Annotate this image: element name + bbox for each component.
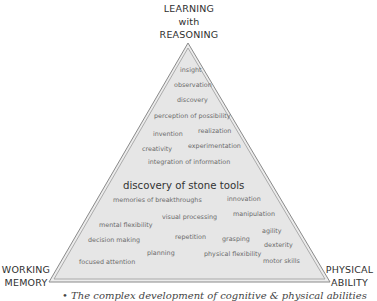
term-realization: realization bbox=[198, 127, 231, 135]
term-planning: planning bbox=[147, 249, 175, 257]
apex-line-3: REASONING bbox=[138, 28, 240, 41]
term-discovery: discovery bbox=[177, 96, 208, 104]
term-motor-skills: motor skills bbox=[263, 257, 300, 265]
term-perception-of-possibility: perception of possibility bbox=[154, 112, 231, 120]
term-agility: agility bbox=[262, 227, 282, 235]
term-grasping: grasping bbox=[222, 235, 250, 243]
term-focused-attention: focused attention bbox=[79, 258, 135, 266]
term-integration-of-information: integration of information bbox=[148, 158, 230, 166]
left-label-working-memory: WORKING MEMORY bbox=[0, 263, 52, 289]
term-repetition: repetition bbox=[175, 233, 206, 241]
center-label: discovery of stone tools bbox=[123, 180, 244, 191]
right-line-2: ABILITY bbox=[322, 276, 377, 289]
term-mental-flexibility: mental flexibility bbox=[99, 221, 153, 229]
term-manipulation: manipulation bbox=[233, 210, 275, 218]
apex-line-2: with bbox=[138, 15, 240, 28]
apex-line-1: LEARNING bbox=[138, 2, 240, 15]
right-label-physical-ability: PHYSICAL ABILITY bbox=[322, 263, 377, 289]
caption: • The complex development of cognitive &… bbox=[62, 290, 367, 301]
term-insight: insight bbox=[180, 66, 202, 74]
term-experimentation: experimentation bbox=[188, 142, 241, 150]
apex-label-learning-with-reasoning: LEARNING with REASONING bbox=[138, 2, 240, 41]
term-decision-making: decision making bbox=[88, 236, 140, 244]
term-invention: invention bbox=[153, 130, 183, 138]
term-innovation: innovation bbox=[227, 195, 261, 203]
left-line-1: WORKING bbox=[0, 263, 52, 276]
term-creativity: creativity bbox=[142, 145, 172, 153]
term-observation: observation bbox=[174, 81, 212, 89]
term-memories-of-breakthroughs: memories of breakthroughs bbox=[113, 196, 202, 204]
left-line-2: MEMORY bbox=[0, 276, 52, 289]
right-line-1: PHYSICAL bbox=[322, 263, 377, 276]
term-visual-processing: visual processing bbox=[162, 213, 217, 221]
term-dexterity: dexterity bbox=[264, 241, 293, 249]
term-physical-flexibility: physical flexibility bbox=[204, 250, 261, 258]
